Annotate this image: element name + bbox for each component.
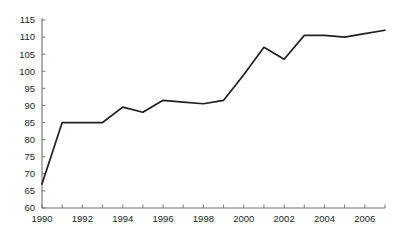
x-axis-tick-label: 2000 [233,213,254,224]
x-axis-tick-label: 2002 [274,213,295,224]
y-axis-tick-label: 65 [24,185,35,196]
x-axis-tick-labels: 199019921994199619982000200220042006 [31,213,375,224]
x-axis-tick-label: 2004 [314,213,335,224]
y-axis-tick-labels: 6065707580859095100105110115 [19,14,35,213]
y-axis-tick-label: 115 [20,14,35,25]
line-chart: 6065707580859095100105110115 19901992199… [0,0,393,250]
x-axis-tick-label: 1996 [152,213,173,224]
x-axis-tick-label: 1998 [193,213,214,224]
data-series-line [42,30,385,184]
x-axis-tick-label: 1994 [112,213,133,224]
y-axis-tick-label: 85 [24,117,35,128]
y-axis-tick-label: 90 [24,100,35,111]
x-axis-tick-label: 1990 [31,213,52,224]
y-axis-tick-label: 95 [24,83,35,94]
x-axis-tick-label: 1992 [72,213,93,224]
y-axis-tick-label: 75 [24,151,35,162]
x-axis-tick-label: 2006 [354,213,375,224]
y-axis-tick-label: 105 [19,49,35,60]
y-axis-tick-label: 110 [20,31,35,42]
y-axis-tick-label: 80 [24,134,35,145]
y-axis-tick-label: 70 [24,168,35,179]
y-axis-tick-label: 100 [19,66,35,77]
chart-canvas: 6065707580859095100105110115 19901992199… [0,0,393,250]
y-axis-tick-label: 60 [24,202,35,213]
